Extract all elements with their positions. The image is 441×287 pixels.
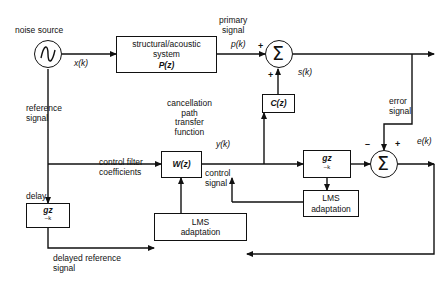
summer-error-plus: +: [395, 139, 400, 149]
label-cancellation-path: cancellation path transfer function: [167, 99, 212, 137]
label-e-of-k: e(k): [417, 137, 432, 147]
summer-error-sigma: Σ: [377, 154, 389, 173]
label-s-of-k: s(k): [298, 68, 312, 78]
lms-bottom-line2: adaptation: [181, 227, 221, 237]
label-x-of-k: x(k): [74, 59, 88, 69]
lms-right-line2: adaptation: [311, 204, 351, 214]
label-control-filter-coefficients: control filter coefficients: [99, 158, 143, 177]
summer-error-minus: –: [365, 139, 370, 149]
summer-primary-plus-top: +: [258, 41, 263, 51]
block-plant-line2: system: [153, 49, 180, 59]
block-delay-label: gz–k: [43, 205, 52, 226]
label-delay: delay: [26, 192, 46, 202]
lms-right-line1: LMS: [322, 193, 339, 203]
label-noise-source: noise source: [15, 26, 63, 36]
label-p-of-k: p(k): [231, 40, 246, 50]
block-cz-label: C(z): [270, 98, 286, 108]
block-plant-line1: structural/acoustic: [132, 39, 201, 49]
block-cz[interactable]: C(z): [262, 94, 295, 113]
lms-bottom-line1: LMS: [192, 217, 209, 227]
label-reference-signal: reference signal: [26, 104, 62, 123]
block-lms-adaptation-bottom[interactable]: LMS adaptation: [154, 213, 247, 241]
block-delay[interactable]: gz–k: [26, 203, 70, 228]
block-wz[interactable]: W(z): [161, 151, 202, 178]
label-delayed-reference-signal: delayed reference signal: [53, 254, 121, 273]
block-filtered-x-delay[interactable]: gz–k: [303, 150, 351, 178]
label-error-signal: error signal: [389, 97, 411, 116]
label-control-signal: control signal: [205, 169, 231, 188]
summer-primary-sigma: Σ: [272, 44, 284, 63]
block-wz-label: W(z): [173, 159, 191, 169]
block-plant-line3: P(z): [159, 60, 175, 70]
label-y-of-k: y(k): [216, 140, 230, 150]
block-lms-adaptation-right[interactable]: LMS adaptation: [303, 190, 359, 217]
label-primary-signal: primary signal: [219, 16, 247, 35]
block-filtered-x-label: gz–k: [322, 153, 331, 174]
summer-primary-plus-bottom: +: [268, 70, 273, 80]
diagram-canvas: structural/acoustic system P(z) C(z) W(z…: [0, 0, 441, 287]
block-plant[interactable]: structural/acoustic system P(z): [116, 36, 217, 73]
